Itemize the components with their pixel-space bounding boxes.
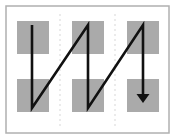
- zigzag-scan-diagram: [0, 0, 175, 139]
- figure-frame: [0, 0, 175, 139]
- figure-root: Diagram: black zigzag sawtooth line swee…: [0, 0, 175, 139]
